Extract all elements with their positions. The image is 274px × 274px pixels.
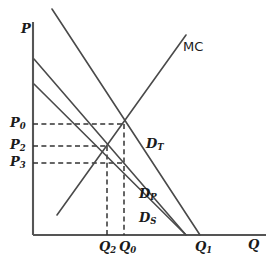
quantity-label-q1-base: Q [195,239,206,254]
curve-label-ds-sub: S [150,216,156,226]
curve-label-dt: DT [146,137,164,150]
curve-label-dp-base: D [139,186,150,201]
price-label-p3-sub: 3 [20,160,26,170]
curve-label-dt-base: D [146,136,157,151]
quantity-label-q1-sub: 1 [206,245,212,255]
quantity-label-q0-sub: 0 [130,245,136,255]
curve-label-ds-base: D [139,210,150,225]
curves-group [34,9,200,235]
curve-label-dp: DP [139,187,157,200]
quantity-label-q0: Q0 [119,240,136,253]
figure-canvas [0,0,274,274]
y-axis-label: P [21,22,31,35]
quantity-label-q2-base: Q [99,239,110,254]
curve-label-mc: MC [183,40,203,53]
economics-supply-demand-figure: P Q P0 P2 P3 Q2 Q0 Q1 DT DP DS MC [0,0,274,274]
price-label-p3-base: P [10,154,20,169]
x-axis-label: Q [248,238,259,251]
curve-label-dp-sub: P [150,192,156,202]
quantity-label-q2: Q2 [99,240,116,253]
price-label-p2-sub: 2 [20,143,26,153]
price-label-p2-base: P [10,137,20,152]
quantity-label-q0-base: Q [119,239,130,254]
curve-social-demand [34,84,186,235]
price-label-p3: P3 [10,155,26,168]
curve-label-ds: DS [139,211,156,224]
curve-total-demand [52,9,200,235]
axes-group [33,22,266,235]
price-label-p0: P0 [10,116,26,129]
curve-label-dt-sub: T [157,142,163,152]
quantity-label-q1: Q1 [195,240,212,253]
price-label-p0-base: P [10,115,20,130]
price-label-p2: P2 [10,138,26,151]
quantity-label-q2-sub: 2 [110,245,116,255]
price-label-p0-sub: 0 [20,121,26,131]
